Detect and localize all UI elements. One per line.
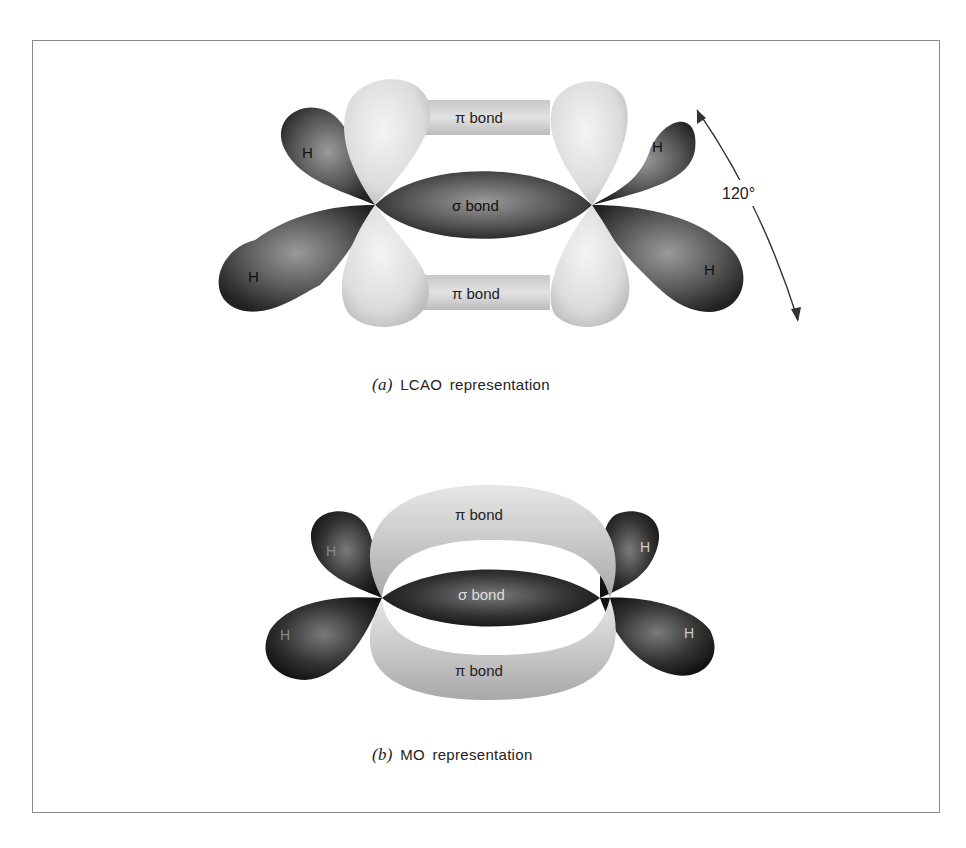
label-h-bottom-right-mo: H: [684, 625, 694, 641]
label-sigma-bond-mo: σ bond: [458, 586, 505, 603]
panel-a-lcao: π bond σ bond π bond H H H H 120°: [219, 79, 801, 327]
angle-label-120: 120°: [722, 185, 755, 202]
caption-a-text: LCAO representation: [400, 376, 550, 393]
label-pi-bond-top-mo: π bond: [455, 506, 503, 523]
caption-b-letter: (b): [372, 745, 393, 764]
ethylene-orbital-diagram: π bond σ bond π bond H H H H 120° π bond…: [0, 0, 966, 848]
label-pi-bond-bottom: π bond: [452, 285, 500, 302]
label-h-bottom-right: H: [704, 261, 715, 278]
arrow-head-bottom: [791, 307, 801, 322]
label-h-top-right: H: [652, 138, 663, 155]
caption-panel-a: (a) LCAO representation: [372, 375, 550, 395]
label-h-bottom-left: H: [248, 268, 259, 285]
label-h-top-right-mo: H: [640, 539, 650, 555]
label-h-top-left: H: [302, 144, 313, 161]
panel-b-mo: π bond σ bond π bond H H H H: [265, 485, 714, 700]
label-pi-bond-bottom-mo: π bond: [455, 662, 503, 679]
label-pi-bond-top: π bond: [455, 109, 503, 126]
caption-panel-b: (b) MO representation: [372, 745, 533, 765]
caption-b-text: MO representation: [400, 746, 532, 763]
caption-a-letter: (a): [372, 375, 393, 394]
label-h-bottom-left-mo: H: [280, 627, 290, 643]
label-h-top-left-mo: H: [326, 543, 336, 559]
label-sigma-bond: σ bond: [452, 197, 499, 214]
